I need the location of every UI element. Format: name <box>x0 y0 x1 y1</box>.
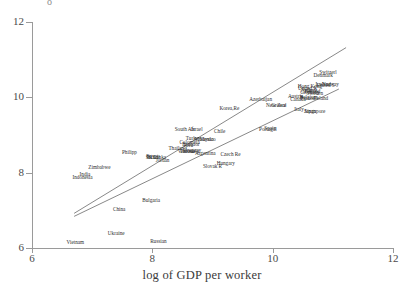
data-point-label: Russian <box>150 239 166 245</box>
data-point-label: Czech Re <box>221 153 241 159</box>
data-point-label: Ukraine <box>108 231 125 237</box>
data-point-label: Malaysia <box>195 137 214 143</box>
data-point-label: Bulgaria <box>142 198 160 204</box>
data-point-label: Italy <box>294 107 304 113</box>
data-point-label: Vietnam <box>67 241 85 247</box>
data-point-label: Jordan <box>156 158 170 164</box>
data-point-label: Switzerl <box>319 70 336 76</box>
data-point-label: Korea,Re <box>219 107 239 113</box>
data-point-label: Slovak R <box>203 165 222 171</box>
data-point-label: Philipp <box>122 150 137 156</box>
data-point-label: Tunisia <box>180 150 195 156</box>
data-point-label: Greece <box>271 104 286 110</box>
data-point-label: Iceland <box>316 82 331 88</box>
data-points-layer: VietnamUkraineRussianChinaBulgariaIndiaI… <box>0 0 404 290</box>
data-point-label: Israel <box>191 128 203 134</box>
data-point-label: Indonesia <box>72 176 92 182</box>
data-point-label: Singapore <box>304 109 325 115</box>
data-point-label: China <box>113 207 125 213</box>
data-point-label: Spain <box>264 126 276 132</box>
data-point-label: Chile <box>214 129 225 135</box>
data-point-label: Ireland <box>313 96 328 102</box>
scatter-plot-figure: o 681012 681012 log of GDP per worker Vi… <box>0 0 404 290</box>
data-point-label: Zimbabwe <box>88 165 110 171</box>
data-point-label: Argentina <box>195 151 216 157</box>
